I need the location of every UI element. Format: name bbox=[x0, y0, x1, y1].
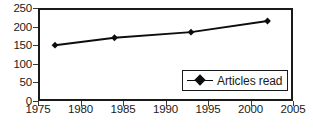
y-tick-label: 200 bbox=[0, 22, 32, 34]
x-tick-label: 1985 bbox=[103, 104, 143, 116]
x-tick-label: 1990 bbox=[146, 104, 186, 116]
caption-bleed bbox=[0, 129, 313, 135]
y-tick-label: 150 bbox=[0, 40, 32, 52]
y-tick-label: 100 bbox=[0, 59, 32, 71]
x-tick-label: 1995 bbox=[188, 104, 228, 116]
x-tick-label: 1980 bbox=[61, 104, 101, 116]
diamond-marker-icon bbox=[187, 74, 213, 88]
y-tick-label: 50 bbox=[0, 77, 32, 89]
legend-entry-label: Articles read bbox=[217, 74, 282, 88]
line-chart: 250 200 150 100 50 0 1975 1980 1985 1990… bbox=[0, 0, 313, 135]
x-tick-label: 1975 bbox=[18, 104, 58, 116]
x-tick-label: 2000 bbox=[231, 104, 271, 116]
x-tick-label: 2005 bbox=[273, 104, 313, 116]
chart-legend: Articles read bbox=[182, 70, 288, 91]
x-axis: 1975 1980 1985 1990 1995 2000 2005 bbox=[0, 104, 313, 124]
y-tick-label: 250 bbox=[0, 3, 32, 15]
